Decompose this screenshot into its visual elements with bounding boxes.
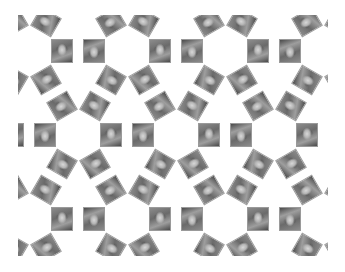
photo-tile: [144, 148, 176, 179]
photo-tile: [226, 15, 258, 38]
photo-tile: [83, 207, 105, 231]
photo-tile: [18, 123, 24, 147]
photo-tile: [79, 91, 111, 122]
photo-tile: [128, 232, 160, 256]
photo-tile: [95, 175, 127, 206]
photo-tile: [95, 64, 127, 95]
photo-tile: [291, 64, 323, 95]
photo-tile: [291, 15, 323, 38]
photo-tile: [291, 175, 323, 206]
photo-tile: [193, 175, 225, 206]
photo-tile: [46, 91, 78, 122]
photo-tile: [18, 232, 28, 256]
photo-tile: [149, 207, 171, 231]
photo-tile: [247, 39, 269, 63]
photo-tile: [144, 91, 176, 122]
photo-tile: [226, 175, 258, 206]
photo-tile: [279, 207, 301, 231]
photo-tile: [30, 175, 62, 206]
photo-tile: [177, 91, 209, 122]
photo-tile: [46, 148, 78, 179]
photo-tile: [51, 207, 73, 231]
photo-tile: [181, 39, 203, 63]
photo-tile: [95, 15, 127, 38]
photo-tile: [100, 123, 122, 147]
photo-tile: [324, 232, 328, 256]
photo-tile: [193, 64, 225, 95]
photo-tile: [132, 123, 154, 147]
photo-tile: [279, 39, 301, 63]
photo-tile: [296, 123, 318, 147]
photo-tile: [247, 207, 269, 231]
photo-tile: [128, 175, 160, 206]
tessellation-canvas: [18, 15, 328, 256]
photo-tile: [324, 175, 328, 206]
photo-tile: [30, 232, 62, 256]
photo-tile: [193, 232, 225, 256]
photo-tile: [128, 15, 160, 38]
photo-tile: [149, 39, 171, 63]
photo-tile: [230, 123, 252, 147]
photo-tile: [275, 91, 307, 122]
photo-tile: [324, 15, 328, 38]
photo-tile: [242, 148, 274, 179]
photo-tile: [226, 232, 258, 256]
photo-tile: [324, 64, 328, 95]
photo-tile: [83, 39, 105, 63]
photo-tile: [198, 123, 220, 147]
photo-tile: [193, 15, 225, 38]
photo-tile: [291, 232, 323, 256]
photo-tile: [242, 91, 274, 122]
photo-tile: [181, 207, 203, 231]
photo-tile: [177, 148, 209, 179]
photo-tile: [51, 39, 73, 63]
photo-tile: [95, 232, 127, 256]
photo-tile: [18, 175, 28, 206]
photo-tile: [275, 148, 307, 179]
photo-tile: [79, 148, 111, 179]
photo-tile: [34, 123, 56, 147]
photo-tile: [30, 64, 62, 95]
photo-tile: [18, 15, 28, 38]
photo-tile: [226, 64, 258, 95]
photo-tile: [128, 64, 160, 95]
photo-tile: [30, 15, 62, 38]
photo-tile: [18, 64, 28, 95]
